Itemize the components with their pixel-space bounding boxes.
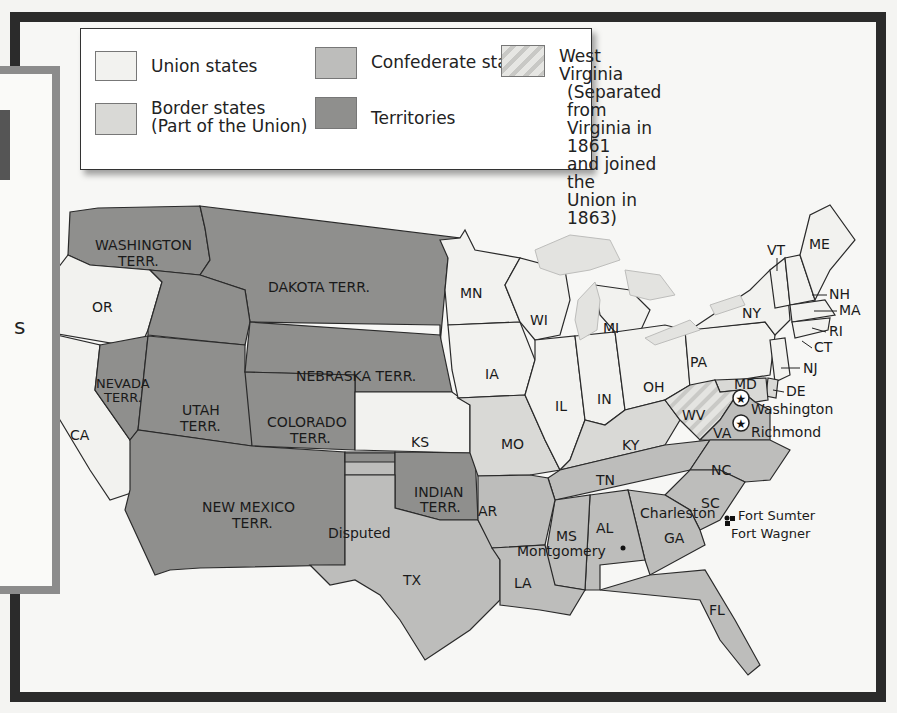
note-line: Union in 1863)	[559, 191, 661, 227]
legend-label: West Virginia	[559, 47, 661, 83]
legend-item-union: Union states	[95, 51, 257, 81]
region-iowa	[448, 322, 535, 398]
label-indian-terr: INDIANTERR.	[414, 484, 464, 515]
label-ms: MS	[556, 528, 577, 544]
label-fl: FL	[709, 602, 725, 618]
label-mo: MO	[501, 436, 524, 452]
label-al: AL	[596, 520, 614, 536]
label-nebraska-terr: NEBRASKA TERR.	[296, 368, 416, 384]
legend-sublabel: (Part of the Union)	[151, 117, 307, 135]
territories-swatch	[315, 97, 357, 129]
label-ks: KS	[411, 434, 429, 450]
note-line: Virginia in 1861	[559, 119, 661, 155]
label-ma: MA	[839, 302, 861, 318]
label-ny: NY	[742, 305, 761, 321]
us-civil-war-map: WASHINGTONTERR. DAKOTA TERR. OR CA NEVAD…	[20, 180, 880, 680]
label-in: IN	[597, 391, 612, 407]
label-dakota-terr: DAKOTA TERR.	[268, 279, 370, 295]
label-ky: KY	[622, 437, 640, 453]
label-utah-terr: UTAHTERR.	[179, 402, 221, 434]
fort-icon-sumter	[730, 516, 735, 521]
west-virginia-swatch	[501, 45, 545, 77]
region-connecticut-ri	[792, 318, 830, 338]
lake-huron	[625, 270, 675, 300]
label-md: MD	[734, 376, 757, 392]
union-swatch	[95, 51, 137, 81]
legend-item-border: Border states (Part of the Union)	[95, 99, 307, 135]
label-wv: WV	[682, 407, 706, 423]
lake-superior	[535, 235, 620, 275]
city-label-fort-sumter: Fort Sumter	[738, 508, 816, 523]
label-nh: NH	[829, 286, 850, 302]
legend-label: Territories	[371, 109, 455, 127]
note-line: and joined the	[559, 155, 661, 191]
label-nc: NC	[711, 462, 731, 478]
legend-label: Border states (Part of the Union)	[151, 99, 307, 135]
label-la: LA	[514, 575, 532, 591]
city-dot-icon-charleston	[725, 516, 730, 521]
star-icon: ★	[736, 392, 747, 406]
label-ar: AR	[478, 503, 498, 519]
label-pa: PA	[690, 354, 708, 370]
label-nj: NJ	[803, 360, 818, 376]
legend-item-territories: Territories	[315, 97, 455, 129]
label-ct: CT	[814, 339, 833, 355]
fort-icon-wagner	[725, 521, 730, 526]
label-oh: OH	[643, 379, 665, 395]
city-label-fort-wagner: Fort Wagner	[731, 526, 811, 541]
note-line: (Separated from	[559, 83, 661, 119]
star-icon: ★	[736, 417, 747, 431]
label-va: VA	[713, 425, 732, 441]
region-no-mans-land	[345, 453, 395, 462]
label-disputed: Disputed	[328, 525, 391, 541]
confederate-swatch	[315, 47, 357, 79]
city-dot-icon-montgomery	[621, 546, 626, 551]
label-me: ME	[809, 236, 830, 252]
label-ia: IA	[485, 366, 499, 382]
region-florida	[600, 570, 760, 675]
panel-text-fragment: s	[14, 314, 25, 339]
region-new-jersey	[770, 338, 790, 382]
border-swatch	[95, 103, 137, 135]
label-vt: VT	[767, 242, 786, 258]
label-tn: TN	[595, 472, 615, 488]
label-nevada-terr: NEVADATERR.	[96, 376, 150, 405]
side-panel: s	[0, 66, 60, 594]
label-ri: RI	[829, 323, 843, 339]
map-legend: Union states Border states (Part of the …	[80, 28, 592, 170]
city-label-richmond: Richmond	[751, 424, 821, 440]
city-label-montgomery: Montgomery	[517, 543, 606, 559]
west-virginia-note: West Virginia (Separated from Virginia i…	[559, 47, 661, 227]
city-label-charleston: Charleston	[640, 505, 716, 521]
label-tx: TX	[402, 572, 422, 588]
label-ca: CA	[70, 427, 90, 443]
city-label-washington: Washington	[751, 401, 833, 417]
label-mn: MN	[460, 285, 483, 301]
legend-label: Union states	[151, 57, 257, 75]
region-minnesota	[440, 230, 520, 325]
label-de: DE	[786, 383, 806, 399]
legend-label-line: Border states	[151, 99, 307, 117]
lake-michigan	[575, 282, 600, 340]
label-il: IL	[555, 398, 567, 414]
label-ga: GA	[664, 530, 685, 546]
label-wi: WI	[530, 312, 548, 328]
label-mi: MI	[603, 320, 619, 336]
legend-item-west-virginia: West Virginia (Separated from Virginia i…	[501, 45, 661, 227]
panel-fragment	[0, 110, 10, 180]
label-or: OR	[92, 299, 113, 315]
